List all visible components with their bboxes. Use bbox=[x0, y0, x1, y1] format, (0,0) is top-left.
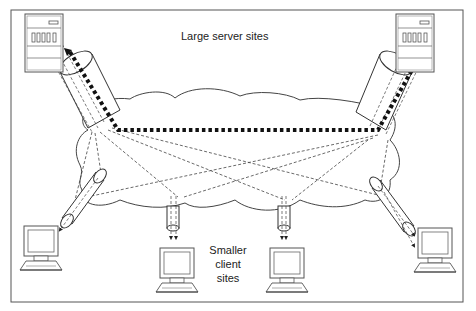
client-sites-label-line1: Smaller bbox=[209, 244, 247, 256]
client-2-computer-icon bbox=[156, 248, 198, 292]
client-4-computer-icon bbox=[414, 228, 456, 272]
client-sites-label-line2: client bbox=[215, 258, 241, 270]
client-1-computer-icon bbox=[20, 226, 62, 270]
network-cloud bbox=[76, 89, 399, 210]
server-left-icon bbox=[25, 14, 63, 72]
server-sites-label: Large server sites bbox=[181, 30, 269, 42]
client-sites-label-line3: sites bbox=[217, 272, 240, 284]
server-right-icon bbox=[396, 14, 434, 72]
client-4-tube bbox=[367, 175, 418, 246]
network-diagram: Large server sites Smaller client sites bbox=[0, 0, 476, 311]
client-3-computer-icon bbox=[266, 248, 308, 292]
